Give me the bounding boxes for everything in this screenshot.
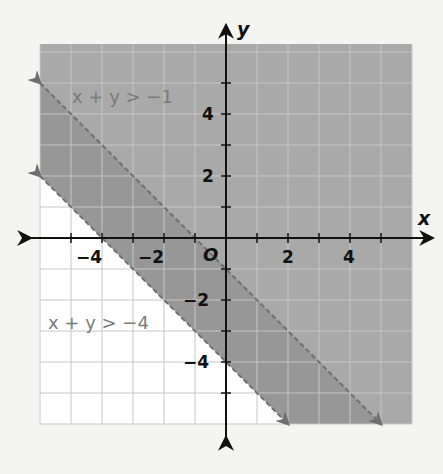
y-tick-label-4: 4: [202, 104, 214, 124]
y-tick-label-minus-4: −4: [183, 352, 209, 372]
x-tick-label-4: 4: [343, 247, 355, 267]
y-tick-label-minus-2: −2: [183, 290, 209, 310]
y-axis-label: y: [237, 18, 251, 40]
x-tick-label-2: 2: [282, 247, 294, 267]
inequality-label-2: x + y > −4: [48, 312, 149, 333]
inequality-label-1: x + y > −1: [72, 86, 173, 107]
x-tick-label-minus-4: −4: [76, 247, 102, 267]
y-tick-label-2: 2: [202, 166, 214, 186]
x-tick-label-minus-2: −2: [138, 247, 164, 267]
origin-label: O: [203, 244, 218, 265]
inequality-graph: x y O −4 −2 2 4 4 2 −2 −4 x + y > −1 x +…: [0, 0, 443, 474]
x-axis-label: x: [417, 207, 431, 229]
